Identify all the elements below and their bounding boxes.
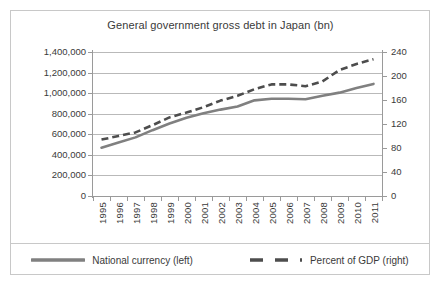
y-axis-left-tick-label: 200,000 bbox=[52, 169, 86, 180]
gridline bbox=[93, 114, 382, 115]
y-axis-left-tick-label: 400,000 bbox=[52, 149, 86, 160]
x-axis-tick-label: 2009 bbox=[335, 202, 346, 224]
x-axis-tick-label: 2006 bbox=[284, 202, 295, 224]
y-axis-left-tick bbox=[88, 175, 93, 176]
x-axis-tick-label: 2004 bbox=[250, 202, 261, 224]
y-axis-right-tick-label: 80 bbox=[391, 142, 402, 153]
x-axis-tick bbox=[161, 196, 162, 201]
x-axis-tick-label: 2001 bbox=[199, 202, 210, 224]
y-axis-right-tick bbox=[382, 148, 387, 149]
y-axis-right-tick bbox=[382, 76, 387, 77]
legend-swatch-solid-icon bbox=[31, 255, 85, 265]
x-axis-tick bbox=[314, 196, 315, 201]
x-axis-tick-label: 2008 bbox=[318, 202, 329, 224]
y-axis-left-tick bbox=[88, 155, 93, 156]
y-axis-left-tick-label: 800,000 bbox=[52, 108, 86, 119]
chart-legend: National currency (left) Percent of GDP … bbox=[11, 248, 429, 272]
x-axis-tick bbox=[365, 196, 366, 201]
x-axis-tick bbox=[331, 196, 332, 201]
y-axis-left-tick-label: 0 bbox=[81, 190, 86, 201]
y-axis-right-tick-label: 240 bbox=[391, 46, 407, 57]
x-axis-tick bbox=[297, 196, 298, 201]
x-axis-tick bbox=[144, 196, 145, 201]
x-axis-tick-label: 2011 bbox=[369, 202, 380, 223]
y-axis-right-tick-label: 40 bbox=[391, 166, 402, 177]
x-axis-tick bbox=[246, 196, 247, 201]
x-axis-tick-label: 2000 bbox=[182, 202, 193, 224]
x-axis-tick bbox=[212, 196, 213, 201]
legend-item-percent-of-gdp[interactable]: Percent of GDP (right) bbox=[249, 255, 409, 266]
y-axis-right-tick bbox=[382, 100, 387, 101]
chart-figure: General government gross debt in Japan (… bbox=[0, 0, 441, 292]
y-axis-left-tick-label: 1,000,000 bbox=[44, 87, 86, 98]
gridline bbox=[93, 52, 382, 53]
legend-swatch-dashed-icon bbox=[249, 255, 303, 265]
y-axis-left-tick-label: 1,400,000 bbox=[44, 46, 86, 57]
x-axis-tick-label: 2005 bbox=[267, 202, 278, 224]
y-axis-right-tick-label: 160 bbox=[391, 94, 407, 105]
gridline bbox=[93, 175, 382, 176]
x-axis-tick-label: 1996 bbox=[114, 202, 125, 224]
x-axis-tick bbox=[110, 196, 111, 201]
x-axis-tick-label: 2007 bbox=[301, 202, 312, 224]
gridline bbox=[93, 93, 382, 94]
legend-label-percent-of-gdp: Percent of GDP (right) bbox=[310, 255, 409, 266]
x-axis-tick bbox=[93, 196, 94, 201]
y-axis-left-tick bbox=[88, 134, 93, 135]
x-axis-tick bbox=[348, 196, 349, 201]
y-axis-left-tick bbox=[88, 93, 93, 94]
x-axis-tick bbox=[263, 196, 264, 201]
legend-item-national-currency[interactable]: National currency (left) bbox=[31, 255, 193, 266]
x-axis-line bbox=[92, 196, 383, 197]
y-axis-right-tick-label: 120 bbox=[391, 118, 407, 129]
x-axis-tick-label: 2010 bbox=[352, 202, 363, 224]
x-axis-tick-label: 2002 bbox=[216, 202, 227, 224]
gridline bbox=[93, 155, 382, 156]
x-axis-tick-label: 1999 bbox=[165, 202, 176, 224]
y-axis-left-tick bbox=[88, 114, 93, 115]
x-axis-tick-label: 1998 bbox=[148, 202, 159, 224]
legend-separator bbox=[11, 243, 429, 244]
y-axis-left-tick bbox=[88, 52, 93, 53]
x-axis-tick-label: 1997 bbox=[131, 202, 142, 224]
y-axis-right-tick bbox=[382, 124, 387, 125]
x-axis-tick-label: 2003 bbox=[233, 202, 244, 224]
x-axis-tick bbox=[195, 196, 196, 201]
x-axis-tick-label: 1995 bbox=[97, 202, 108, 224]
plot-area bbox=[93, 52, 382, 196]
y-axis-left-tick-label: 600,000 bbox=[52, 128, 86, 139]
x-axis-tick bbox=[280, 196, 281, 201]
x-axis-tick bbox=[229, 196, 230, 201]
y-axis-left-tick bbox=[88, 73, 93, 74]
legend-label-national-currency: National currency (left) bbox=[92, 255, 193, 266]
gridline bbox=[93, 73, 382, 74]
y-axis-right-tick bbox=[382, 172, 387, 173]
x-axis-tick bbox=[127, 196, 128, 201]
y-axis-right-tick-label: 200 bbox=[391, 70, 407, 81]
y-axis-left-tick-label: 1,200,000 bbox=[44, 67, 86, 78]
y-axis-right-tick bbox=[382, 52, 387, 53]
x-axis-tick bbox=[178, 196, 179, 201]
gridline bbox=[93, 134, 382, 135]
x-axis-tick bbox=[382, 196, 383, 201]
y-axis-right-tick-label: 0 bbox=[391, 190, 396, 201]
